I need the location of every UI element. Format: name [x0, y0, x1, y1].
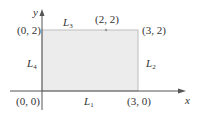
edge-subscript: 4	[33, 63, 37, 71]
edge-label-l1: L1	[84, 96, 94, 109]
vertex-label-0-2: (0, 2)	[17, 25, 41, 36]
point-label: (2, 2)	[95, 14, 119, 25]
x-axis-arrow-icon	[178, 89, 186, 94]
point-marker	[105, 29, 107, 31]
vertex-label-0-0: (0, 0)	[16, 96, 40, 107]
vertex-label-3-2: (3, 2)	[142, 25, 166, 36]
shaded-region	[42, 30, 138, 91]
y-axis-label: y	[33, 7, 38, 18]
edge-subscript: 2	[152, 63, 156, 71]
edge-label-l3: L3	[63, 17, 73, 30]
x-axis-label: x	[185, 95, 190, 106]
edge-subscript: 3	[69, 22, 73, 30]
edge-subscript: 1	[90, 101, 94, 109]
vertex-label-3-0: (3, 0)	[127, 96, 151, 107]
edge-label-l4: L4	[27, 58, 37, 71]
y-axis-arrow-icon	[40, 9, 45, 16]
edge-label-l2: L2	[146, 58, 156, 71]
